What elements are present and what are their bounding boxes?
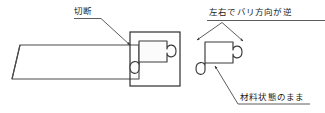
diagram-canvas: 切断 左右でバリ方向が逆 材料状態のまま <box>0 0 325 113</box>
setsudan-leader <box>101 19 130 46</box>
puzzle-blank-detached <box>196 42 242 74</box>
annotation-label-material-state: 材料状態のまま <box>240 93 304 102</box>
annotation-label-setsudan: 切断 <box>74 7 92 16</box>
material-leader <box>215 66 238 104</box>
burr-leader-right <box>222 23 243 42</box>
burr-leader-left <box>197 23 222 41</box>
annotation-label-burr-direction: 左右でバリ方向が逆 <box>209 8 292 17</box>
material-strip-group <box>12 45 139 79</box>
blank-shade <box>141 43 165 60</box>
material-strip <box>12 45 139 79</box>
